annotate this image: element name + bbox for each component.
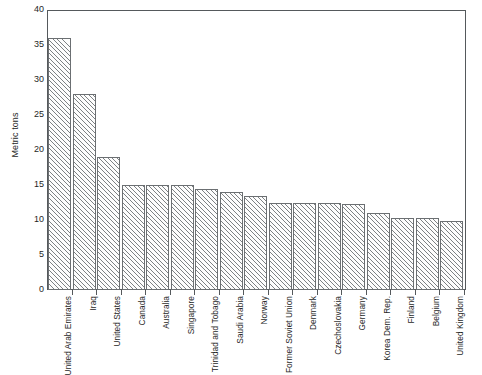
bar <box>391 218 414 290</box>
x-tick-mark <box>317 290 318 295</box>
x-tick-mark <box>243 290 244 295</box>
x-tick-mark <box>292 290 293 295</box>
y-tick-label: 0 <box>16 285 44 294</box>
bar <box>318 203 341 291</box>
bar <box>269 203 292 291</box>
bar <box>122 185 145 290</box>
x-tick-label: Belgium <box>431 296 441 326</box>
bar <box>342 204 365 290</box>
x-tick-label: Singapore <box>186 296 196 334</box>
x-tick-mark <box>341 290 342 295</box>
x-tick-label: Czechoslovakia <box>333 296 343 355</box>
bar <box>440 221 463 290</box>
x-tick-label: Finland <box>406 296 416 324</box>
x-tick-mark <box>415 290 416 295</box>
bar <box>244 196 267 291</box>
x-tick-label: United States <box>112 296 122 346</box>
x-tick-mark <box>390 290 391 295</box>
x-tick-label: Saudi Arabia <box>235 296 245 344</box>
y-tick-label: 20 <box>16 145 44 154</box>
y-axis-title: Metric tons <box>10 90 20 180</box>
bar <box>97 157 120 290</box>
x-axis-labels: United Arab EmiratesIraqUnited StatesCan… <box>0 296 482 365</box>
x-tick-label: Denmark <box>308 296 318 330</box>
x-tick-label: Germany <box>357 296 367 330</box>
x-tick-mark <box>219 290 220 295</box>
bar <box>367 213 390 290</box>
bar <box>73 94 96 290</box>
x-tick-label: Norway <box>259 296 269 324</box>
x-tick-mark <box>170 290 171 295</box>
x-tick-label: Australia <box>161 296 171 329</box>
x-tick-label: Former Soviet Union <box>284 296 294 373</box>
y-tick-label: 25 <box>16 110 44 119</box>
y-tick-label: 40 <box>16 5 44 14</box>
x-tick-mark <box>464 290 465 295</box>
x-tick-mark <box>121 290 122 295</box>
bar <box>146 185 169 290</box>
x-tick-mark <box>72 290 73 295</box>
x-tick-mark <box>439 290 440 295</box>
x-tick-mark <box>366 290 367 295</box>
bar <box>171 185 194 290</box>
x-tick-mark <box>194 290 195 295</box>
x-tick-label: Trinidad and Tobago <box>210 296 220 372</box>
x-tick-mark <box>268 290 269 295</box>
x-tick-mark <box>145 290 146 295</box>
x-tick-label: Canada <box>137 296 147 325</box>
y-tick-label: 5 <box>16 250 44 259</box>
x-tick-label: United Arab Emirates <box>63 296 73 375</box>
bar <box>220 192 243 290</box>
y-tick-label: 15 <box>16 180 44 189</box>
bar <box>48 38 71 290</box>
y-tick-label: 35 <box>16 40 44 49</box>
bar <box>416 218 439 290</box>
x-tick-label: Iraq <box>88 296 98 311</box>
y-tick-label: 30 <box>16 75 44 84</box>
x-tick-label: Korea Dem. Rep. <box>382 296 392 361</box>
bar <box>293 203 316 291</box>
bar <box>195 189 218 291</box>
bars-area <box>48 11 465 290</box>
x-tick-label: United Kingdom <box>455 296 465 356</box>
y-tick-label: 10 <box>16 215 44 224</box>
x-tick-mark <box>96 290 97 295</box>
